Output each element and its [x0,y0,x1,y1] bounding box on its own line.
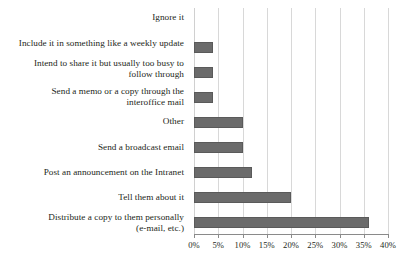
x-tick-25 [315,235,316,238]
x-tick-0 [194,235,195,238]
category-label-tell-them: Tell them about it [0,192,184,203]
x-tick-5 [218,235,219,238]
category-label-too-busy-line2: follow through [0,69,184,80]
bar-row [194,192,291,203]
bar-row [194,42,213,53]
bar-row [194,167,252,178]
x-tick-20 [291,235,292,238]
bar-tell-them [194,192,291,203]
x-tick-40 [388,235,389,238]
category-label-distribute-copy-line1: Distribute a copy to them personally [0,212,184,223]
bar-weekly-update [194,42,213,53]
bar-row [194,217,369,228]
gridline-20 [291,8,292,234]
bar-too-busy [194,67,213,78]
plot-area [194,8,388,234]
gridline-35 [364,8,365,234]
gridline-25 [315,8,316,234]
bar-other [194,117,243,128]
bar-row [194,117,243,128]
bar-intranet-announcement [194,167,252,178]
bar-distribute-copy [194,217,369,228]
category-label-ignore-it: Ignore it [0,12,184,23]
category-label-weekly-update: Include it in something like a weekly up… [0,38,184,49]
category-label-distribute-copy-line2: (e-mail, etc.) [0,223,184,234]
x-tick-30 [340,235,341,238]
bar-broadcast-email [194,142,243,153]
bar-row [194,67,213,78]
category-label-interoffice-mail-line2: interoffice mail [0,97,184,108]
gridline-40 [388,8,389,234]
category-label-intranet-announcement: Post an announcement on the Intranet [0,167,184,178]
x-tick-label-40: 40% [371,240,405,251]
x-tick-35 [364,235,365,238]
bar-row [194,142,243,153]
category-label-other: Other [0,116,184,127]
gridline-30 [340,8,341,234]
x-tick-15 [267,235,268,238]
category-label-interoffice-mail-line1: Send a memo or a copy through the [0,86,184,97]
bar-interoffice-mail [194,92,213,103]
x-tick-10 [243,235,244,238]
bar-chart: Ignore it Include it in something like a… [0,0,409,257]
category-label-broadcast-email: Send a broadcast email [0,142,184,153]
category-label-column: Ignore it Include it in something like a… [0,0,189,234]
category-label-too-busy-line1: Intend to share it but usually too busy … [0,58,184,69]
bar-row [194,92,213,103]
